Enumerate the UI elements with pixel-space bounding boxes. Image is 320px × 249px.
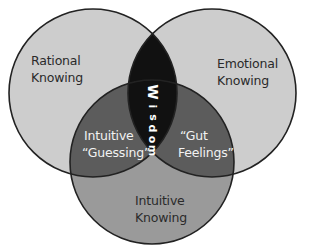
rational-label-line1: Rational <box>31 52 83 69</box>
emotional-label-line2: Knowing <box>217 72 278 89</box>
gut-feelings-label: “Gut Feelings” <box>178 127 234 161</box>
intuitive-guessing-label: Intuitive “Guessing” <box>82 127 150 161</box>
wisdom-letter: W <box>144 84 162 99</box>
wisdom-letter: d <box>148 125 159 133</box>
intuitive-knowing-label: Intuitive Knowing <box>135 192 187 226</box>
rational-knowing-label: Rational Knowing <box>31 52 83 86</box>
gut-feelings-line1: “Gut <box>178 127 234 144</box>
wisdom-label: W i s d o m <box>145 83 161 156</box>
wisdom-letter: o <box>148 136 159 144</box>
emotional-knowing-label: Emotional Knowing <box>217 55 278 89</box>
intuitive-label-line1: Intuitive <box>135 192 187 209</box>
guessing-label-line1: Intuitive <box>82 127 150 144</box>
wisdom-letter: s <box>148 114 159 121</box>
rational-label-line2: Knowing <box>31 69 83 86</box>
guessing-label-line2: “Guessing” <box>82 144 150 161</box>
intuitive-label-line2: Knowing <box>135 209 187 226</box>
gut-feelings-line2: Feelings” <box>178 144 234 161</box>
wisdom-letter: i <box>148 105 159 109</box>
emotional-label-line1: Emotional <box>217 55 278 72</box>
wisdom-letter: m <box>148 145 159 156</box>
